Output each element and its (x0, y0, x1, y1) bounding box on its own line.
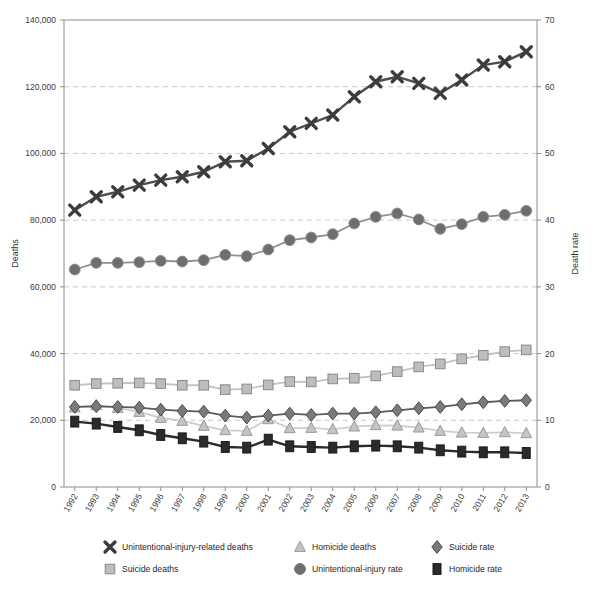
data-point-rect-bar (350, 441, 358, 452)
data-point-rect-bar (264, 434, 272, 445)
data-point-rect-bar (135, 425, 143, 436)
data-point-diamond (306, 409, 316, 422)
data-point-diamond (177, 405, 187, 418)
data-point-square (134, 378, 144, 388)
data-point-diamond (478, 396, 488, 409)
data-point-rect-bar (200, 436, 208, 447)
data-point-rect-bar (501, 447, 509, 458)
y2-axis-title: Death rate (570, 232, 580, 274)
x-tick-label: 2009 (427, 492, 445, 514)
data-point-square (91, 379, 101, 389)
data-point-circle (134, 257, 145, 268)
x-tick-label: 2006 (362, 492, 380, 514)
data-point-circle (91, 257, 102, 268)
x-tick-label: 2013 (513, 492, 531, 514)
y2-tick-label: 50 (545, 148, 555, 158)
data-point-rect-bar (114, 422, 122, 433)
x-tick-label: 1992 (61, 492, 79, 514)
x-tick-label: 2008 (405, 492, 423, 514)
data-point-x-cross (457, 75, 467, 85)
data-point-circle (327, 229, 338, 240)
data-point-rect-bar (458, 446, 466, 457)
x-tick-label: 2000 (233, 492, 251, 514)
legend-item[interactable]: Suicide rate (432, 541, 495, 554)
data-point-circle (284, 235, 295, 246)
data-point-circle (349, 218, 360, 229)
x-tick-label: 2007 (384, 492, 402, 514)
data-point-square (177, 380, 187, 390)
data-point-square (521, 345, 531, 355)
data-point-square (371, 371, 381, 381)
data-point-square (242, 384, 252, 394)
data-point-square (435, 359, 445, 369)
chart-figure: 020,00040,00060,00080,000100,000120,0001… (0, 0, 592, 591)
series-suicide-deaths (70, 345, 531, 394)
y2-tick-label: 30 (545, 282, 555, 292)
legend-item-label: Unintentional-injury rate (312, 564, 403, 574)
x-tick-label: 2003 (298, 492, 316, 514)
x-tick-label: 2011 (470, 492, 488, 513)
y-tick-label: 100,000 (25, 148, 56, 158)
y2-tick-label: 60 (545, 82, 555, 92)
x-tick-label: 2012 (491, 492, 509, 514)
x-tick-label: 2010 (448, 492, 466, 514)
series-suicide-rate (70, 394, 532, 424)
legend-item[interactable]: Suicide deaths (105, 564, 178, 574)
data-point-circle (478, 211, 489, 222)
data-point-rect-bar (372, 440, 380, 451)
data-point-x-cross (349, 92, 359, 102)
y-tick-label: 120,000 (25, 82, 56, 92)
data-point-square (392, 367, 402, 377)
data-point-square (70, 380, 80, 390)
legend-item[interactable]: Unintentional-injury rate (295, 564, 403, 575)
y2-axis-ticks: 010203040506070 (537, 15, 555, 492)
data-point-circle (435, 223, 446, 234)
y-tick-label: 80,000 (30, 215, 56, 225)
legend-item[interactable]: Homicide deaths (295, 541, 376, 552)
data-point-diamond (392, 404, 402, 417)
data-point-x-cross (285, 127, 295, 137)
legend-item-label: Homicide deaths (312, 542, 376, 552)
x-tick-label: 1994 (104, 492, 122, 514)
data-point-square (263, 380, 273, 390)
data-point-circle (456, 219, 467, 230)
data-point-circle (392, 208, 403, 219)
y2-tick-label: 10 (545, 415, 555, 425)
data-point-circle (112, 257, 123, 268)
data-point-diamond (432, 541, 442, 554)
data-point-rect-bar (243, 442, 251, 453)
data-point-diamond (500, 395, 510, 408)
data-point-diamond (199, 405, 209, 418)
data-point-square (199, 380, 209, 390)
data-point-rect-bar (307, 442, 315, 453)
legend-item[interactable]: Homicide rate (433, 564, 502, 575)
data-point-circle (521, 205, 532, 216)
data-point-x-cross (435, 88, 445, 98)
legend-item[interactable]: Unintentional-injury-related deaths (105, 542, 253, 552)
y-tick-label: 40,000 (30, 349, 56, 359)
data-point-square (457, 354, 467, 364)
chart-legend: Unintentional-injury-related deathsHomic… (105, 541, 502, 575)
legend-item-label: Homicide rate (449, 564, 502, 574)
data-point-rect-bar (178, 433, 186, 444)
data-point-circle (220, 249, 231, 260)
data-point-circle (241, 251, 252, 262)
data-point-square (220, 385, 230, 395)
data-point-square (156, 379, 166, 389)
data-point-diamond (457, 398, 467, 411)
data-series (69, 47, 531, 459)
data-point-circle (263, 244, 274, 255)
data-point-rect-bar (221, 442, 229, 453)
data-point-x-cross (521, 47, 531, 57)
data-point-square (500, 347, 510, 357)
data-point-circle (177, 256, 188, 267)
legend-item-label: Suicide deaths (122, 564, 178, 574)
y-tick-label: 60,000 (30, 282, 56, 292)
data-point-diamond (521, 394, 531, 407)
x-tick-label: 2002 (276, 492, 294, 514)
data-point-rect-bar (92, 418, 100, 429)
axes (64, 20, 537, 487)
data-point-x-cross (105, 542, 115, 552)
data-point-diamond (328, 407, 338, 420)
data-point-diamond (414, 402, 424, 415)
